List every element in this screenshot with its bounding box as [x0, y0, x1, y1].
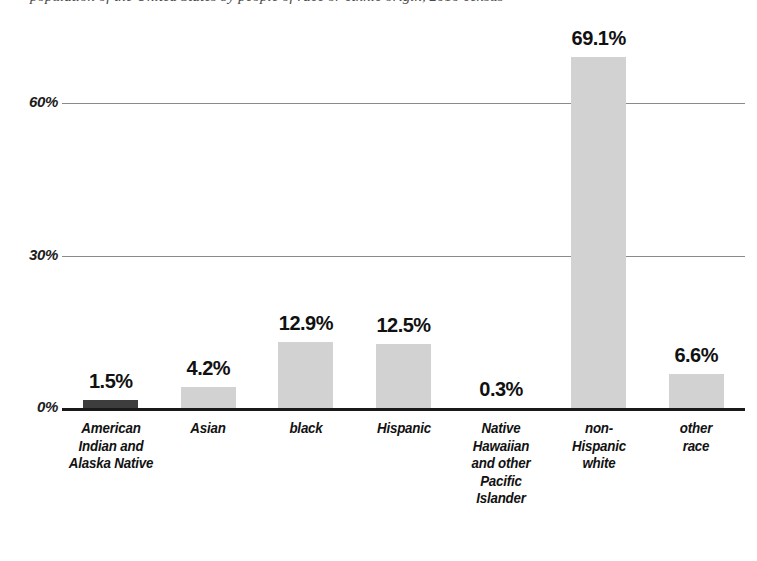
y-axis-tick-label-30: 30%	[14, 246, 58, 263]
bar-value-label: 6.6%	[626, 344, 757, 367]
bar	[83, 400, 138, 408]
category-label-line: other	[632, 420, 757, 438]
category-label-line: Alaska Native	[46, 455, 175, 473]
bar	[181, 387, 236, 408]
bar-value-label: 4.2%	[138, 357, 278, 380]
category-label-line: race	[632, 438, 757, 456]
gridline-30	[62, 256, 745, 257]
bar-chart-plot-area: 0%30%60%1.5%AmericanIndian andAlaska Nat…	[0, 0, 757, 561]
bar	[278, 342, 333, 408]
gridline-60	[62, 103, 745, 104]
chart-figure: population of the United States by peopl…	[0, 0, 757, 561]
category-label-line: white	[534, 455, 663, 473]
bar	[669, 374, 724, 408]
y-axis-tick-label-0: 0%	[14, 398, 58, 415]
bar	[571, 57, 626, 408]
category-label-line: Islander	[437, 490, 566, 508]
category-label-line: Pacific	[437, 473, 566, 491]
y-axis-tick-label-60: 60%	[14, 93, 58, 110]
bar-value-label: 12.5%	[334, 314, 474, 337]
bar-value-label: 0.3%	[431, 378, 571, 401]
x-axis-category-label: otherrace	[632, 420, 757, 455]
bar	[376, 344, 431, 408]
x-axis-baseline	[62, 408, 745, 411]
category-label-line: Indian and	[46, 438, 175, 456]
bar-value-label: 69.1%	[529, 27, 669, 50]
